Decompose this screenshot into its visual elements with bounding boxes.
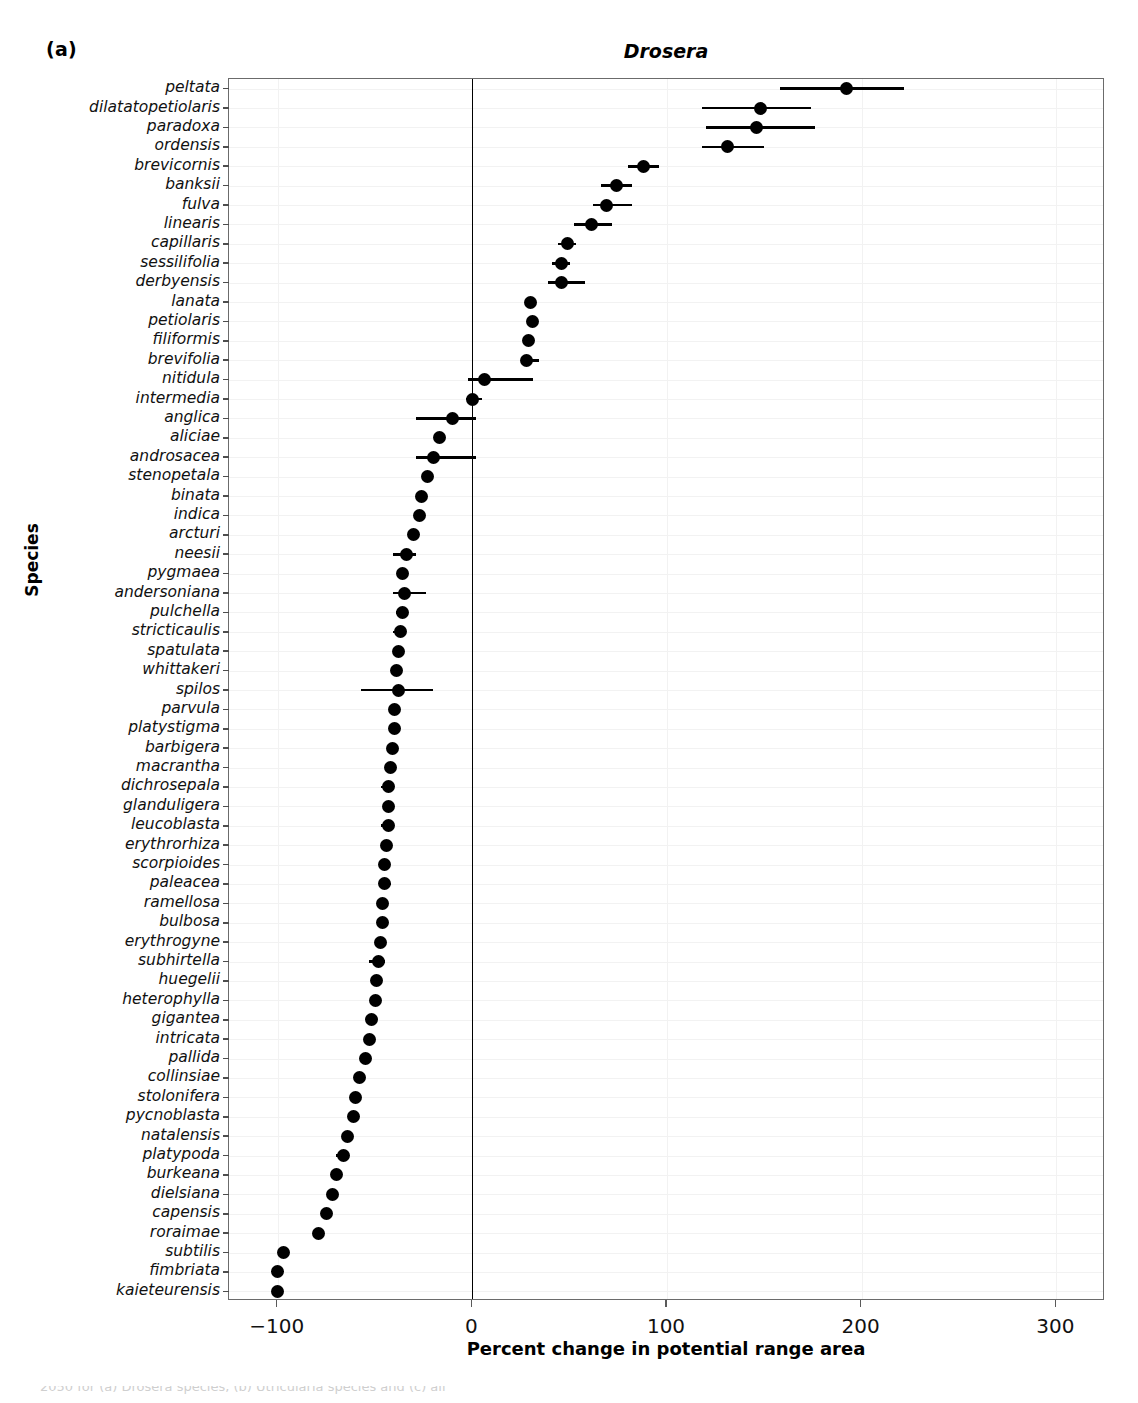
data-point (754, 102, 767, 115)
grid-line-horizontal (229, 224, 1103, 225)
x-tick-mark (665, 1300, 667, 1307)
grid-line-vertical (667, 79, 668, 1299)
y-tick-mark (223, 883, 229, 885)
y-tick-mark (223, 1155, 229, 1157)
y-tick-label-brevifolia: brevifolia (148, 352, 220, 368)
plot-panel (228, 78, 1104, 1300)
data-point (427, 451, 440, 464)
data-point (392, 645, 405, 658)
data-point (374, 936, 387, 949)
y-tick-label-sessilifolia: sessilifolia (140, 255, 220, 271)
y-tick-label-binata: binata (171, 488, 220, 504)
y-tick-label-burkeana: burkeana (147, 1166, 220, 1182)
grid-line-horizontal (229, 884, 1103, 885)
grid-line-horizontal (229, 1253, 1103, 1254)
data-point (376, 897, 389, 910)
y-tick-label-subhirtella: subhirtella (138, 953, 220, 969)
data-point (421, 470, 434, 483)
data-point (478, 373, 491, 386)
y-tick-mark (223, 980, 229, 982)
y-tick-mark (223, 1252, 229, 1254)
grid-line-vertical (278, 79, 279, 1299)
y-tick-label-intermedia: intermedia (136, 391, 220, 407)
grid-line-horizontal (229, 690, 1103, 691)
data-point (380, 839, 393, 852)
grid-line-horizontal (229, 89, 1103, 90)
data-point (392, 684, 405, 697)
grid-line-horizontal (229, 1194, 1103, 1195)
data-point (382, 800, 395, 813)
grid-line-horizontal (229, 244, 1103, 245)
y-tick-mark (223, 476, 229, 478)
data-point (522, 334, 535, 347)
y-tick-label-stricticaulis: stricticaulis (132, 623, 220, 639)
y-tick-label-pallida: pallida (168, 1050, 220, 1066)
data-point (320, 1207, 333, 1220)
data-point (610, 179, 623, 192)
y-tick-mark (223, 1135, 229, 1137)
y-tick-label-whittakeri: whittakeri (142, 662, 220, 678)
grid-line-horizontal (229, 127, 1103, 128)
y-tick-mark (223, 767, 229, 769)
y-tick-mark (223, 398, 229, 400)
y-tick-mark (223, 1097, 229, 1099)
data-point (312, 1227, 325, 1240)
y-tick-label-andersoniana: andersoniana (114, 585, 220, 601)
grid-line-horizontal (229, 1039, 1103, 1040)
grid-line-horizontal (229, 1136, 1103, 1137)
y-tick-mark (223, 1291, 229, 1293)
data-point (388, 703, 401, 716)
data-point (555, 276, 568, 289)
data-point (415, 490, 428, 503)
data-point (378, 877, 391, 890)
y-tick-mark (223, 825, 229, 827)
data-point (337, 1149, 350, 1162)
y-tick-mark (223, 844, 229, 846)
grid-line-horizontal (229, 205, 1103, 206)
y-tick-label-subtilis: subtilis (165, 1244, 220, 1260)
grid-line-horizontal (229, 360, 1103, 361)
y-tick-label-indica: indica (174, 507, 220, 523)
data-point (396, 567, 409, 580)
y-tick-mark (223, 146, 229, 148)
y-tick-label-petiolaris: petiolaris (148, 313, 220, 329)
data-point (407, 528, 420, 541)
y-tick-mark (223, 282, 229, 284)
y-tick-label-platypoda: platypoda (142, 1147, 220, 1163)
grid-line-horizontal (229, 981, 1103, 982)
data-point (433, 431, 446, 444)
y-tick-mark (223, 1116, 229, 1118)
y-tick-mark (223, 961, 229, 963)
grid-line-horizontal (229, 186, 1103, 187)
y-tick-mark (223, 1232, 229, 1234)
y-tick-mark (223, 456, 229, 458)
y-tick-label-lanata: lanata (171, 294, 220, 310)
y-tick-label-ordensis: ordensis (154, 138, 220, 154)
plot-title: Drosera (228, 40, 1104, 62)
y-tick-mark (223, 1058, 229, 1060)
y-tick-label-pulchella: pulchella (150, 604, 220, 620)
y-tick-label-platystigma: platystigma (128, 720, 220, 736)
y-tick-label-dielsiana: dielsiana (151, 1186, 220, 1202)
y-tick-label-paradoxa: paradoxa (147, 119, 220, 135)
x-tick-label--100: −100 (249, 1314, 304, 1338)
data-point (413, 509, 426, 522)
data-point (555, 257, 568, 270)
data-point (349, 1091, 362, 1104)
grid-line-vertical (1056, 79, 1057, 1299)
y-tick-mark (223, 165, 229, 167)
grid-line-horizontal (229, 283, 1103, 284)
y-tick-mark (223, 573, 229, 575)
data-point (524, 296, 537, 309)
y-tick-label-barbigera: barbigera (145, 740, 220, 756)
y-tick-mark (223, 340, 229, 342)
grid-line-horizontal (229, 108, 1103, 109)
grid-line-horizontal (229, 593, 1103, 594)
y-tick-label-nitidula: nitidula (162, 371, 220, 387)
grid-line-horizontal (229, 1156, 1103, 1157)
y-tick-label-peltata: peltata (165, 80, 220, 96)
y-tick-label-ramellosa: ramellosa (144, 895, 220, 911)
y-tick-label-leucoblasta: leucoblasta (131, 817, 220, 833)
grid-line-horizontal (229, 962, 1103, 963)
y-tick-mark (223, 728, 229, 730)
